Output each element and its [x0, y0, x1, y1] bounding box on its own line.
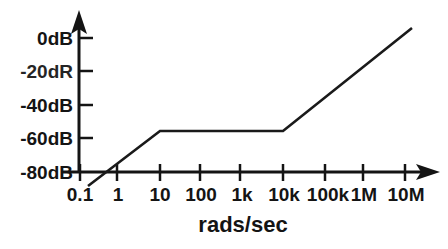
x-tick-label-10m: 10M — [388, 184, 425, 205]
x-axis-title: rads/sec — [198, 212, 287, 237]
x-tick-label-10k: 10k — [268, 184, 300, 205]
bode-magnitude-chart: 0dB -20dR -40dB -60dB -80dB 0.1 1 10 100… — [0, 0, 448, 249]
x-tick-label-100k: 100k — [307, 184, 350, 205]
x-tick-label-1k: 1k — [231, 184, 253, 205]
y-tick-label-minus60db: -60dB — [20, 128, 73, 149]
x-tick-label-100: 100 — [185, 184, 217, 205]
x-tick-label-0p1: 0.1 — [67, 184, 94, 205]
y-tick-label-minus20db: -20dR — [20, 61, 73, 82]
x-tick-label-10: 10 — [149, 184, 170, 205]
bode-plot-figure: 0dB -20dR -40dB -60dB -80dB 0.1 1 10 100… — [0, 0, 448, 249]
y-tick-label-0db: 0dB — [37, 28, 73, 49]
y-tick-label-minus40db: -40dB — [20, 95, 73, 116]
x-tick-label-1m: 1M — [351, 184, 377, 205]
x-tick-label-1: 1 — [113, 184, 124, 205]
